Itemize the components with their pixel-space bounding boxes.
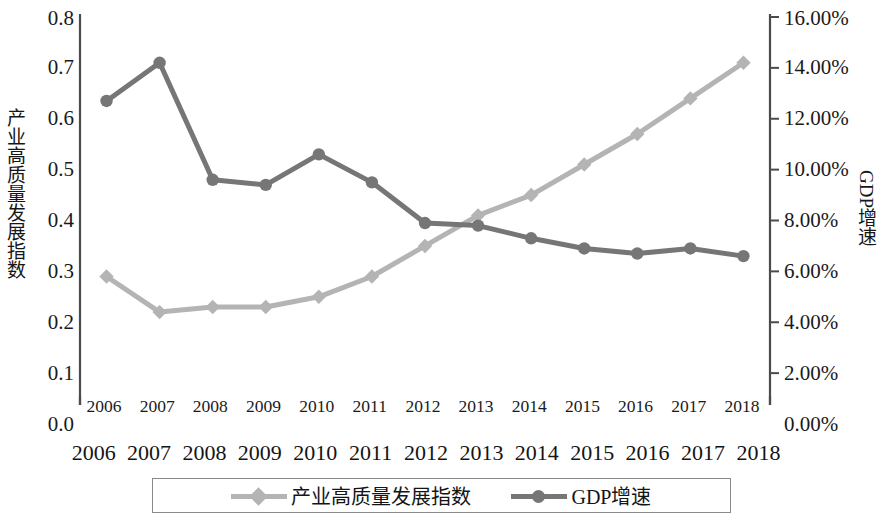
legend-label: GDP增速 bbox=[567, 481, 651, 510]
x-axis-label: 2009 bbox=[237, 396, 289, 420]
data-point-marker bbox=[259, 300, 273, 314]
data-point-marker bbox=[260, 179, 272, 191]
series-industry-index bbox=[99, 56, 750, 320]
chart-legend: 产业高质量发展指数 GDP增速 bbox=[152, 478, 731, 513]
data-point-marker bbox=[419, 217, 431, 229]
x-axis-label: 2007 bbox=[131, 396, 183, 420]
x-axis-label: 2006 bbox=[78, 396, 130, 420]
data-point-marker bbox=[578, 242, 590, 254]
x-axis-label-secondary: 2013 bbox=[454, 440, 509, 468]
x-axis-label-secondary: 2017 bbox=[675, 440, 730, 468]
chart-container: 产业高质量发展指数 GDP增速 0.0 0.1 0.2 0.3 0.4 0.5 … bbox=[0, 0, 881, 516]
right-axis-ticks bbox=[770, 17, 779, 373]
x-axis-label: 2015 bbox=[556, 396, 608, 420]
x-axis-label-secondary: 2010 bbox=[288, 440, 343, 468]
data-point-marker bbox=[206, 174, 218, 186]
x-axis-label: 2011 bbox=[344, 396, 396, 420]
x-axis-labels-primary: 2006 2007 2008 2009 2010 2011 2012 2013 … bbox=[78, 396, 768, 420]
x-axis-label-secondary: 2014 bbox=[509, 440, 564, 468]
plot-area bbox=[0, 0, 881, 516]
legend-item-industry-index[interactable]: 产业高质量发展指数 bbox=[231, 481, 471, 510]
x-axis-label: 2016 bbox=[610, 396, 662, 420]
x-axis-label: 2010 bbox=[291, 396, 343, 420]
x-axis-label-secondary: 2016 bbox=[620, 440, 675, 468]
data-point-marker bbox=[312, 290, 326, 304]
data-point-marker bbox=[525, 232, 537, 244]
data-point-marker bbox=[100, 95, 112, 107]
legend-marker-circle-icon bbox=[511, 489, 567, 503]
x-axis-label: 2008 bbox=[184, 396, 236, 420]
x-axis-label: 2014 bbox=[503, 396, 555, 420]
x-axis-label: 2013 bbox=[450, 396, 502, 420]
legend-item-gdp-growth[interactable]: GDP增速 bbox=[511, 481, 651, 510]
data-point-marker bbox=[684, 242, 696, 254]
data-point-marker bbox=[472, 219, 484, 231]
x-axis-label: 2017 bbox=[663, 396, 715, 420]
x-axis-label-secondary: 2011 bbox=[343, 440, 398, 468]
x-axis-labels-secondary: 2006 2007 2008 2009 2010 2011 2012 2013 … bbox=[66, 440, 786, 468]
legend-marker-diamond-icon bbox=[231, 489, 287, 503]
data-point-marker bbox=[313, 148, 325, 160]
x-axis-label-secondary: 2015 bbox=[565, 440, 620, 468]
data-point-marker bbox=[205, 300, 219, 314]
x-axis-label: 2018 bbox=[716, 396, 768, 420]
x-axis-label-secondary: 2006 bbox=[66, 440, 121, 468]
data-point-marker bbox=[153, 57, 165, 69]
legend-label: 产业高质量发展指数 bbox=[287, 481, 471, 510]
x-axis-label-secondary: 2007 bbox=[121, 440, 176, 468]
x-axis-label: 2012 bbox=[397, 396, 449, 420]
series-gdp-growth bbox=[100, 57, 749, 263]
x-axis-label-secondary: 2008 bbox=[177, 440, 232, 468]
x-axis-label-secondary: 2018 bbox=[731, 440, 786, 468]
x-axis-label-secondary: 2012 bbox=[398, 440, 453, 468]
data-point-marker bbox=[366, 176, 378, 188]
data-point-marker bbox=[631, 247, 643, 259]
x-axis-label-secondary: 2009 bbox=[232, 440, 287, 468]
data-point-marker bbox=[737, 250, 749, 262]
series-line bbox=[107, 63, 744, 312]
